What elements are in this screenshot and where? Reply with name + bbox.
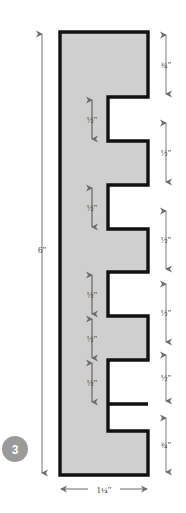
notch-dim-label-4: ½" (87, 334, 98, 344)
technical-drawing: 6" 1¼" ¾" ½" ½" ½" (0, 0, 186, 513)
right-dim-label-3: ½" (161, 235, 172, 245)
step-badge: 3 (2, 436, 28, 462)
right-dim-label-1: ¾" (161, 60, 172, 70)
notch-dim-label-2: ½" (87, 203, 98, 213)
right-dim-label-4: ½" (161, 308, 172, 318)
right-dim-label-5: ½" (161, 373, 172, 383)
notch-dim-label-3: ½" (87, 290, 98, 300)
width-dimension-label: 1¼" (97, 485, 112, 495)
notch-dim-label-5: ½" (87, 378, 98, 388)
right-dim-label-2: ½" (161, 148, 172, 158)
right-dim-label-6: ¾" (161, 440, 172, 450)
height-dimension-label: 6" (38, 245, 47, 255)
step-badge-number: 3 (12, 443, 19, 457)
figure-canvas: 6" 1¼" ¾" ½" ½" ½" (0, 0, 186, 513)
notch-dim-label-1: ½" (87, 115, 98, 125)
